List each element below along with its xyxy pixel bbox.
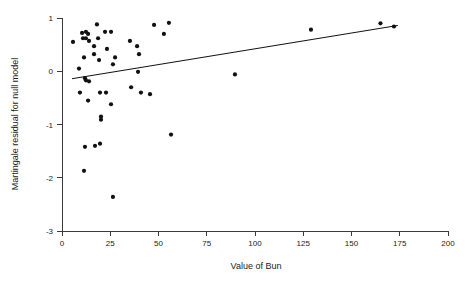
data-point: [87, 79, 91, 83]
data-point: [129, 85, 133, 89]
x-tick-label: 150: [345, 239, 359, 248]
y-tick-label: -1: [46, 121, 54, 130]
chart-figure: 0255075100125150175200 10-1-2-3 Value of…: [0, 0, 474, 284]
y-tick-label: 0: [49, 67, 54, 76]
x-tick-label: 25: [106, 239, 115, 248]
y-tick-label: -3: [46, 227, 54, 236]
data-point: [137, 52, 141, 56]
data-point: [86, 32, 90, 36]
data-point: [82, 169, 86, 173]
data-point: [105, 47, 109, 51]
scatter-plot-canvas: 0255075100125150175200 10-1-2-3 Value of…: [0, 0, 474, 284]
data-point: [98, 142, 102, 146]
data-point: [77, 66, 81, 70]
data-point: [148, 92, 152, 96]
y-axis-ticks: 10-1-2-3: [46, 14, 62, 236]
data-point: [109, 30, 113, 34]
x-tick-label: 75: [202, 239, 211, 248]
data-points-group: [71, 21, 396, 199]
x-tick-label: 50: [154, 239, 163, 248]
x-tick-label: 125: [297, 239, 311, 248]
data-point: [104, 90, 108, 94]
data-point: [111, 62, 115, 66]
data-point: [152, 23, 156, 27]
data-point: [87, 39, 91, 43]
x-tick-label: 100: [248, 239, 262, 248]
data-point: [135, 44, 139, 48]
data-point: [93, 144, 97, 148]
regression-fit-line: [72, 25, 398, 78]
data-point: [80, 31, 84, 35]
x-axis-ticks: 0255075100125150175200: [60, 231, 455, 248]
data-point: [86, 98, 90, 102]
x-tick-label: 0: [60, 239, 65, 248]
data-point: [167, 21, 171, 25]
data-point: [98, 90, 102, 94]
data-point: [109, 102, 113, 106]
y-tick-label: -2: [46, 174, 54, 183]
data-point: [92, 52, 96, 56]
y-tick-label: 1: [49, 14, 54, 23]
data-point: [78, 90, 82, 94]
data-point: [233, 72, 237, 76]
data-point: [83, 145, 87, 149]
data-point: [82, 55, 86, 59]
data-point: [378, 21, 382, 25]
data-point: [139, 90, 143, 94]
data-point: [136, 70, 140, 74]
x-axis-title: Value of Bun: [231, 261, 282, 271]
data-point: [97, 58, 101, 62]
data-point: [169, 133, 173, 137]
data-point: [113, 55, 117, 59]
x-tick-label: 175: [393, 239, 407, 248]
data-point: [71, 40, 75, 44]
data-point: [96, 36, 100, 40]
data-point: [111, 195, 115, 199]
data-point: [128, 39, 132, 43]
x-tick-label: 200: [441, 239, 455, 248]
y-axis-title: Martingale residual for null model: [10, 58, 20, 191]
data-point: [309, 28, 313, 32]
data-point: [103, 30, 107, 34]
data-point: [162, 32, 166, 36]
data-point: [99, 118, 103, 122]
data-point: [92, 44, 96, 48]
data-point: [95, 22, 99, 26]
